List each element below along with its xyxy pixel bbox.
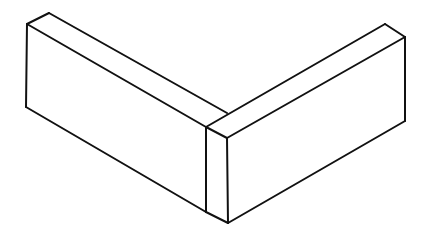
right-block-edge [206, 212, 228, 223]
left-block-edge [27, 13, 49, 24]
right-block-edge [227, 138, 228, 223]
right-block-edge [206, 127, 227, 138]
left-block-edge [26, 24, 27, 107]
right-block-edge [227, 37, 405, 138]
right-block [206, 24, 405, 223]
left-block-edge [49, 13, 227, 113]
right-block-edge [385, 24, 405, 37]
left-block-edge [26, 107, 206, 212]
left-block [26, 13, 227, 212]
left-block-edge [27, 24, 206, 127]
l-shaped-block-diagram [0, 0, 430, 237]
right-block-edge [228, 121, 405, 223]
right-block-edge [206, 24, 385, 127]
